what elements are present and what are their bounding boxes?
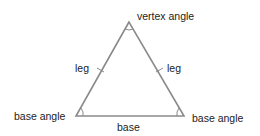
base-angle-arc-left <box>81 108 83 116</box>
leg-right-label: leg <box>167 63 181 74</box>
base-label: base <box>117 122 140 133</box>
base-angle-left-label: base angle <box>14 111 65 122</box>
base-angle-right-label: base angle <box>192 113 243 124</box>
leg-left-label: leg <box>75 63 89 74</box>
vertex-angle-label: vertex angle <box>137 11 194 22</box>
base-angle-arc-right <box>177 108 179 116</box>
vertex-angle-arc <box>125 29 133 30</box>
